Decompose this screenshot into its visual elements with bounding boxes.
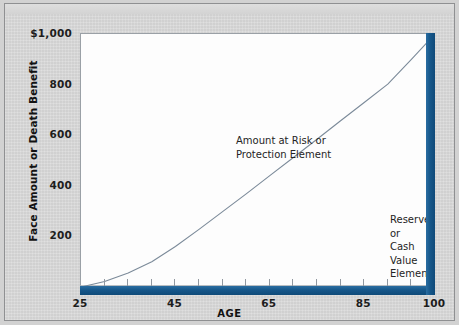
x-minor-tick-30	[104, 279, 105, 286]
x-minor-tick-75	[316, 279, 317, 286]
x-minor-tick-70	[292, 279, 293, 286]
annotation-amount-at-risk: Amount at Risk orProtection Element	[236, 134, 331, 161]
x-minor-tick-40	[151, 279, 152, 286]
y-tick-200: 200	[0, 229, 92, 241]
y-tick-label: $1,000	[30, 27, 72, 39]
y-tick-600: 600	[0, 128, 92, 140]
x-minor-tick-85	[363, 279, 364, 286]
x-minor-tick-45	[174, 279, 175, 286]
y-tick-800: 800	[0, 78, 92, 90]
annotation-reserve-line1: Reserve or	[390, 214, 430, 239]
y-tick-400: 400	[0, 179, 92, 191]
figure-frame-sheen	[5, 4, 454, 14]
x-axis-title: AGE	[0, 308, 459, 319]
y-tick-label: 600	[49, 128, 72, 140]
annotation-reserve-line2: Cash Value	[390, 241, 417, 266]
x-minor-tick-95	[410, 279, 411, 286]
annotation-risk-line2: Protection Element	[236, 149, 331, 160]
y-tick-label: 400	[49, 179, 72, 191]
annotation-risk-line1: Amount at Risk or	[236, 135, 326, 146]
x-minor-tick-90	[387, 279, 388, 286]
y-tick-label: 200	[49, 229, 72, 241]
x-minor-tick-35	[127, 279, 128, 286]
x-minor-tick-80	[340, 279, 341, 286]
x-minor-tick-50	[198, 279, 199, 286]
x-minor-tick-55	[222, 279, 223, 286]
x-axis-blue-band	[80, 286, 435, 295]
y-tick-label: 800	[49, 78, 72, 90]
right-axis-blue-band	[426, 33, 435, 295]
x-minor-tick-65	[269, 279, 270, 286]
whole-life-insurance-chart: Face Amount or Death Benefit $1,00080060…	[0, 0, 459, 325]
plot-area: Amount at Risk orProtection Element Rese…	[80, 33, 434, 286]
y-tick-1000: $1,000	[0, 27, 92, 39]
x-minor-tick-60	[245, 279, 246, 286]
